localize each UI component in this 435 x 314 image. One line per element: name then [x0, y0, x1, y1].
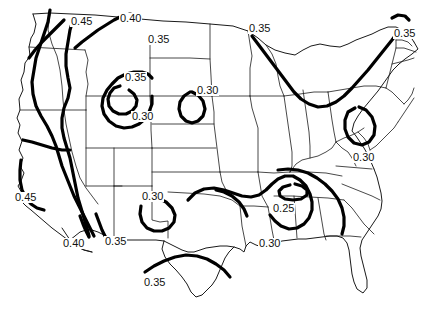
- isoline-label-035-southwest: 0.35: [104, 236, 127, 247]
- isoline-035-northeast-tick: [392, 15, 409, 20]
- isoline-035-interior-west: [23, 140, 70, 150]
- isoline-label-035-northern-rockies: 0.35: [124, 72, 147, 83]
- border-nc-va: [336, 166, 372, 169]
- border-id-mt: [85, 50, 88, 110]
- border-wi-mi-lake: [266, 45, 284, 96]
- isoline-label-040-northwest-top: 0.40: [119, 13, 142, 24]
- border-sc-nc: [342, 184, 380, 200]
- gulf-coast: [164, 241, 269, 252]
- isoline-label-035-north-central: 0.35: [147, 34, 170, 45]
- contour-map-figure: 0.45 0.40 0.35 0.35 0.35 0.35 0.30 0.30 …: [0, 0, 435, 314]
- border-ne-states-3: [404, 88, 414, 104]
- isoline-025-southeast-loop: [279, 184, 307, 200]
- isoline-040-great-basin: [62, 20, 89, 236]
- border-ne-ia-mo: [212, 96, 220, 172]
- isoline-label-035-northeast: 0.35: [393, 28, 416, 39]
- border-me-inner: [396, 40, 412, 46]
- state-borders-group: [20, 13, 416, 246]
- isoline-label-040-southwest: 0.40: [62, 238, 85, 249]
- border-ne-states-1: [392, 58, 414, 64]
- border-ky-tn: [290, 172, 342, 176]
- border-ny-east: [386, 88, 404, 104]
- isoline-label-045-northwest-top: 0.45: [70, 16, 93, 27]
- isoline-label-030-northern-plains: 0.30: [196, 85, 219, 96]
- border-ne-states-2: [396, 48, 416, 52]
- border-ia-il: [250, 96, 258, 172]
- isoline-label-035-texas-south: 0.35: [143, 277, 166, 288]
- northeast-coast: [352, 42, 418, 169]
- isoline-label-030-mid-atlantic: 0.30: [352, 152, 375, 163]
- border-mi-in-oh-north: [284, 92, 328, 96]
- isoline-label-030-south-central: 0.30: [141, 191, 164, 202]
- isoline-label-025-southeast: 0.25: [272, 203, 295, 214]
- border-nd-sd: [150, 58, 210, 59]
- isoline-label-030-northern-rockies: 0.30: [131, 111, 154, 122]
- border-il-ky-mo: [258, 172, 290, 173]
- border-al-ga: [318, 198, 326, 240]
- isoline-label-035-great-lakes-north: 0.35: [248, 23, 271, 34]
- isoline-label-045-southwest-coast: 0.45: [14, 192, 37, 203]
- border-il-in: [284, 96, 292, 172]
- isoline-label-030-gulf-coast: 0.30: [258, 238, 281, 249]
- border-ky-oh-river: [290, 142, 336, 172]
- border-oh-pa: [328, 92, 336, 142]
- border-mn-wi: [248, 31, 252, 96]
- isoline-030-northern-plains-loop: [179, 92, 205, 123]
- isoline-035-texas-arc: [145, 255, 230, 277]
